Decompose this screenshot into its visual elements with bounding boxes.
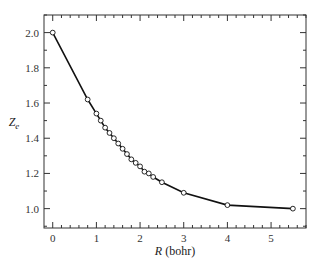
y-axis-label: Ze <box>9 115 20 131</box>
x-tick-label: 3 <box>181 232 187 244</box>
data-point-marker <box>133 160 138 165</box>
data-point-marker <box>138 164 143 169</box>
data-point-marker <box>146 171 151 176</box>
x-tick-label: 5 <box>268 232 274 244</box>
data-point-marker <box>85 97 90 102</box>
x-tick-label: 0 <box>50 232 56 244</box>
plot-frame <box>44 15 306 228</box>
y-tick-label: 1.8 <box>25 62 39 74</box>
data-point-marker <box>129 157 134 162</box>
data-point-marker <box>151 175 156 180</box>
data-point-marker <box>103 125 108 130</box>
y-tick-label: 2.0 <box>25 27 39 39</box>
chart: 012345 1.01.21.41.61.82.0 R (bohr) Ze <box>0 0 316 268</box>
y-tick-label: 1.0 <box>25 203 39 215</box>
x-tick-label: 1 <box>94 232 100 244</box>
data-point-marker <box>50 30 55 35</box>
data-point-marker <box>125 152 130 157</box>
series-line <box>53 33 293 209</box>
y-tick-label: 1.4 <box>25 132 39 144</box>
data-point-marker <box>94 111 99 116</box>
data-point-marker <box>181 190 186 195</box>
y-tick-label: 1.6 <box>25 97 39 109</box>
data-point-marker <box>225 203 230 208</box>
data-point-marker <box>116 141 121 146</box>
x-axis-label: R (bohr) <box>154 244 195 258</box>
data-point-marker <box>111 136 116 141</box>
x-tick-label: 4 <box>225 232 231 244</box>
x-axis-ticks: 012345 <box>50 15 306 244</box>
x-tick-label: 2 <box>137 232 143 244</box>
y-tick-label: 1.2 <box>25 167 39 179</box>
data-point-marker <box>291 206 296 211</box>
data-point-marker <box>107 131 112 136</box>
data-point-marker <box>160 180 165 185</box>
y-axis-ticks: 1.01.21.41.61.82.0 <box>25 15 306 226</box>
data-point-marker <box>98 118 103 123</box>
data-series <box>50 30 295 211</box>
data-point-marker <box>120 146 125 151</box>
